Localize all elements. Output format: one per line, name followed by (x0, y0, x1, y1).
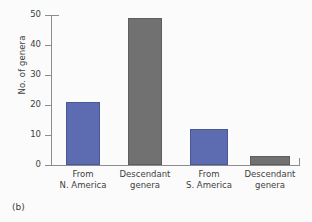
y-tick-label-40: 40 (30, 39, 41, 49)
y-tick-40: 40 (45, 45, 51, 46)
y-tick-0: 0 (45, 165, 51, 166)
y-tick-label-50: 50 (30, 9, 41, 19)
y-axis-top-tick (51, 15, 59, 16)
bar-from-s-america (190, 129, 228, 165)
y-axis-title: No. of genera (17, 10, 27, 120)
plot-area: 0 10 20 30 40 50 From N. America Descend… (51, 15, 300, 165)
x-tick-label-from-n-america: From N. America (53, 169, 113, 191)
x-axis-end-tick (299, 158, 300, 166)
y-tick-30: 30 (45, 75, 51, 76)
x-tick-label-descendant-genera-2: Descendant genera (239, 169, 301, 191)
y-tick-label-0: 0 (36, 159, 41, 169)
bar-from-n-america (66, 102, 100, 165)
y-tick-label-30: 30 (30, 69, 41, 79)
bar-descendant-genera-s-america (250, 156, 290, 165)
x-tick-label-descendant-genera-1: Descendant genera (114, 169, 176, 191)
x-tick-label-from-s-america: From S. America (179, 169, 239, 191)
y-tick-10: 10 (45, 135, 51, 136)
y-tick-50: 50 (45, 15, 51, 16)
y-tick-label-20: 20 (30, 99, 41, 109)
y-tick-20: 20 (45, 105, 51, 106)
y-tick-label-10: 10 (30, 129, 41, 139)
panel-caption: (b) (12, 202, 25, 212)
y-axis-line (51, 15, 52, 165)
figure-panel-b: No. of genera 0 10 20 30 40 50 From N (0, 0, 312, 222)
bar-descendant-genera-n-america (128, 18, 162, 165)
x-axis-line (51, 165, 300, 166)
